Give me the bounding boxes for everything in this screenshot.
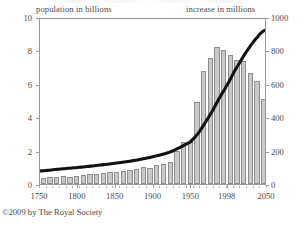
y2-axis-tick-label: 0 <box>271 181 301 190</box>
y-axis-tick-mark <box>36 51 39 52</box>
x-axis-minor-tick <box>112 186 113 188</box>
y2-axis-tick-mark <box>266 118 269 119</box>
y-axis-tick-mark <box>36 18 39 19</box>
x-axis-minor-tick <box>39 186 40 188</box>
y2-axis-tick-label: 600 <box>271 81 301 90</box>
right-axis-caption: increase in millions <box>186 4 255 14</box>
y2-axis-tick-label: 800 <box>271 47 301 56</box>
x-axis-minor-tick <box>226 186 227 188</box>
x-axis-minor-tick <box>166 186 167 188</box>
x-axis-minor-tick <box>119 186 120 188</box>
x-axis-minor-tick <box>259 186 260 188</box>
y2-axis-tick-label: 1000 <box>271 14 301 23</box>
y-axis-tick-label: 2 <box>8 148 32 157</box>
x-axis-minor-tick <box>126 186 127 188</box>
y-axis-tick-label: 6 <box>8 81 32 90</box>
x-axis-minor-tick <box>106 186 107 188</box>
x-axis-tick-mark <box>115 185 116 188</box>
x-axis-minor-tick <box>72 186 73 188</box>
x-axis-minor-tick <box>153 186 154 188</box>
x-axis-tick-mark <box>77 185 78 188</box>
x-axis-minor-tick <box>46 186 47 188</box>
clipped-text-artifact <box>55 0 255 3</box>
y-axis-tick-label: 8 <box>8 47 32 56</box>
x-axis-tick-label: 1750 <box>19 192 59 201</box>
x-axis-minor-tick <box>92 186 93 188</box>
x-axis-minor-tick <box>186 186 187 188</box>
x-axis-minor-tick <box>146 186 147 188</box>
x-axis-minor-tick <box>253 186 254 188</box>
x-axis-tick-label: 1900 <box>133 192 173 201</box>
y-axis-tick-label: 10 <box>8 14 32 23</box>
x-axis-minor-tick <box>66 186 67 188</box>
y-axis-tick-mark <box>36 152 39 153</box>
y2-axis-tick-mark <box>266 51 269 52</box>
y-axis-tick-label: 0 <box>8 181 32 190</box>
x-axis-minor-tick <box>233 186 234 188</box>
x-axis-minor-tick <box>266 186 267 188</box>
y-axis-tick-label: 4 <box>8 114 32 123</box>
plot-area <box>39 18 266 185</box>
x-axis-minor-tick <box>52 186 53 188</box>
x-axis-tick-mark <box>190 185 191 188</box>
x-axis-tick-label: 2050 <box>246 192 286 201</box>
y-axis-tick-mark <box>36 118 39 119</box>
x-axis-minor-tick <box>179 186 180 188</box>
y-axis-tick-mark <box>36 85 39 86</box>
x-axis-minor-tick <box>159 186 160 188</box>
x-axis-tick-label: 1800 <box>57 192 97 201</box>
x-axis-minor-tick <box>206 186 207 188</box>
x-axis-tick-label: 1850 <box>95 192 135 201</box>
x-axis-minor-tick <box>193 186 194 188</box>
x-axis-minor-tick <box>213 186 214 188</box>
x-axis-minor-tick <box>239 186 240 188</box>
y2-axis-tick-mark <box>266 152 269 153</box>
x-axis-minor-tick <box>199 186 200 188</box>
x-axis-minor-tick <box>79 186 80 188</box>
x-axis-minor-tick <box>219 186 220 188</box>
left-axis-caption: population in billions <box>36 4 112 14</box>
y2-axis-tick-label: 400 <box>271 114 301 123</box>
y2-axis-tick-label: 200 <box>271 148 301 157</box>
x-axis-minor-tick <box>173 186 174 188</box>
x-axis-minor-tick <box>59 186 60 188</box>
y2-axis-tick-mark <box>266 85 269 86</box>
copyright-caption: ©2009 by The Royal Society <box>2 207 102 217</box>
x-axis-minor-tick <box>86 186 87 188</box>
x-axis-minor-tick <box>132 186 133 188</box>
x-axis-tick-label: 1998 <box>207 192 247 201</box>
x-axis-tick-label: 1950 <box>170 192 210 201</box>
chart-figure: population in billions increase in milli… <box>0 0 303 227</box>
x-axis-minor-tick <box>139 186 140 188</box>
population-line-series <box>40 19 265 184</box>
x-axis-minor-tick <box>99 186 100 188</box>
x-axis-minor-tick <box>246 186 247 188</box>
y2-axis-tick-mark <box>266 18 269 19</box>
